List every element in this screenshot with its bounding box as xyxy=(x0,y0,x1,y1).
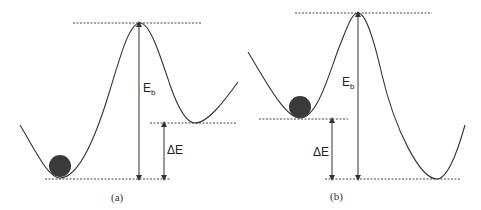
energy-landscape-diagram: Eb ΔE (a) Eb ΔE (b) xyxy=(0,0,481,210)
panel-a: Eb ΔE (a) xyxy=(20,23,238,204)
potential-curve xyxy=(248,13,465,179)
barrier-label: Eb xyxy=(342,75,355,91)
panel-caption: (b) xyxy=(330,190,343,203)
potential-curve xyxy=(20,23,238,178)
panel-b: Eb ΔE (b) xyxy=(248,13,465,203)
barrier-label: Eb xyxy=(143,81,156,97)
delta-label: ΔE xyxy=(167,143,183,157)
delta-label: ΔE xyxy=(313,145,329,159)
ball-icon xyxy=(49,155,71,177)
panel-caption: (a) xyxy=(111,191,124,204)
ball-icon xyxy=(289,96,311,118)
